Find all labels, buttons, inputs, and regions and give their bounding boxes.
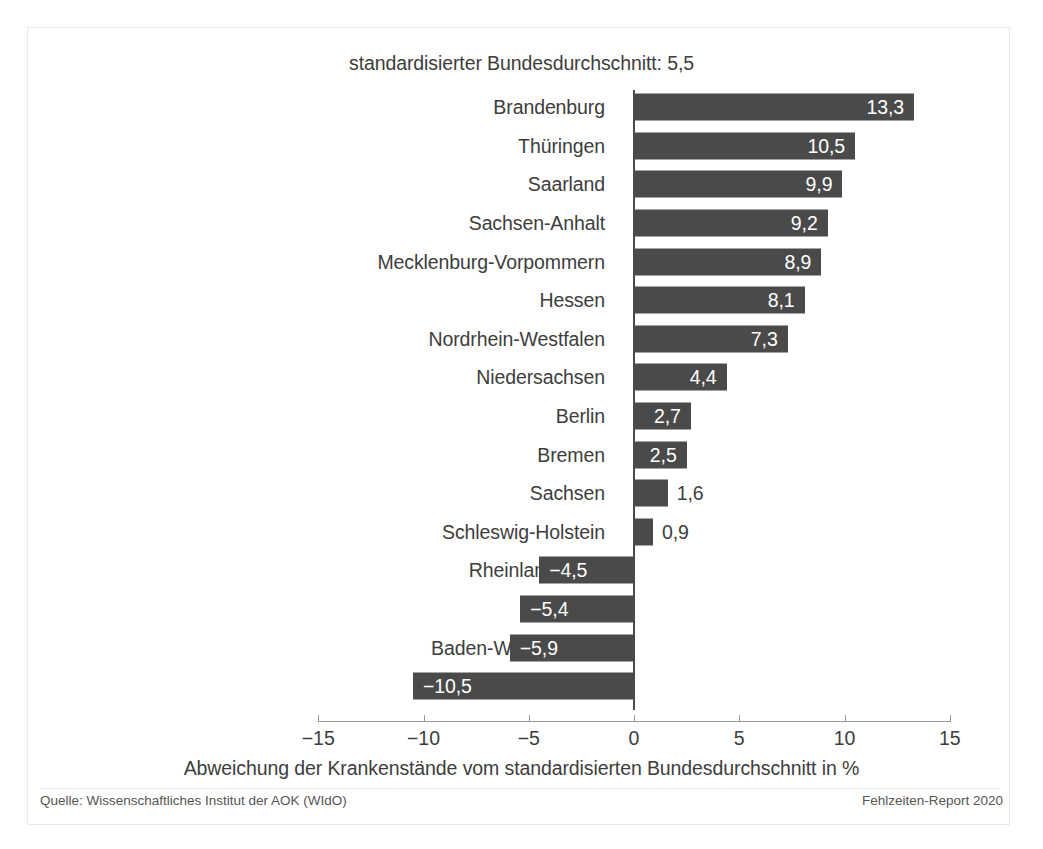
zero-axis-line xyxy=(633,90,635,710)
x-axis-tick xyxy=(529,715,530,722)
bar-value-label: 2,5 xyxy=(650,443,677,466)
x-axis-tick xyxy=(950,715,951,722)
x-axis-tick-label: −5 xyxy=(489,727,569,750)
bar-row: Berlin2,7 xyxy=(0,397,1043,436)
bar-value-label: 9,2 xyxy=(791,212,818,235)
x-axis-title: Abweichung der Krankenstände vom standar… xyxy=(0,757,1043,780)
x-axis-tick-label: 15 xyxy=(910,727,990,750)
x-axis-tick xyxy=(739,715,740,722)
bar-value-label: 1,6 xyxy=(677,482,704,505)
bar-value-label: 8,9 xyxy=(785,250,812,273)
bar-row: Nordrhein-Westfalen7,3 xyxy=(0,320,1043,359)
bar-row: Mecklenburg-Vorpommern8,9 xyxy=(0,242,1043,281)
category-label: Mecklenburg-Vorpommern xyxy=(40,250,605,273)
footer-report: Fehlzeiten-Report 2020 xyxy=(862,793,1003,808)
footer-divider xyxy=(40,788,1000,789)
bar-value-label: −5,4 xyxy=(530,598,568,621)
x-axis-tick xyxy=(845,715,846,722)
category-label: Sachsen-Anhalt xyxy=(40,212,605,235)
bar-value-label: 9,9 xyxy=(806,173,833,196)
bar-value-label: −10,5 xyxy=(423,675,472,698)
x-axis-tick xyxy=(318,715,319,722)
bar-value-label: 7,3 xyxy=(751,327,778,350)
x-axis-tick-label: 5 xyxy=(699,727,779,750)
bar-row: Brandenburg13,3 xyxy=(0,88,1043,127)
bar xyxy=(634,480,668,507)
category-label: Rheinland-Pfalz xyxy=(40,559,605,582)
bar-row: Sachsen-Anhalt9,2 xyxy=(0,204,1043,243)
bar-value-label: 0,9 xyxy=(662,520,689,543)
x-axis-tick-label: −15 xyxy=(278,727,358,750)
category-label: Saarland xyxy=(40,173,605,196)
category-label: Hessen xyxy=(40,289,605,312)
category-label: Sachsen xyxy=(40,482,605,505)
bar-value-label: 4,4 xyxy=(690,366,717,389)
footer-source: Quelle: Wissenschaftliches Institut der … xyxy=(40,793,347,808)
bar-row: Niedersachsen4,4 xyxy=(0,358,1043,397)
x-axis-tick xyxy=(424,715,425,722)
bar-value-label: 13,3 xyxy=(866,96,904,119)
bar-row: Hessen8,1 xyxy=(0,281,1043,320)
bar-value-label: −5,9 xyxy=(520,636,558,659)
x-axis-tick xyxy=(634,715,635,722)
bar-row: Schleswig-Holstein0,9 xyxy=(0,513,1043,552)
bar-row: Bayern−10,5 xyxy=(0,667,1043,706)
category-label: Berlin xyxy=(40,405,605,428)
plot-area: Brandenburg13,3Thüringen10,5Saarland9,9S… xyxy=(0,88,1043,713)
bar-value-label: 2,7 xyxy=(654,405,681,428)
bar xyxy=(634,518,653,545)
bar-row: Rheinland-Pfalz−4,5 xyxy=(0,551,1043,590)
bar-row: Sachsen1,6 xyxy=(0,474,1043,513)
category-label: Bremen xyxy=(40,443,605,466)
x-axis-tick-label: −10 xyxy=(384,727,464,750)
category-label: Schleswig-Holstein xyxy=(40,520,605,543)
bar-row: Thüringen10,5 xyxy=(0,127,1043,166)
category-label: Thüringen xyxy=(40,134,605,157)
category-label: Niedersachsen xyxy=(40,366,605,389)
bar-row: Saarland9,9 xyxy=(0,165,1043,204)
bar-row: Hamburg−5,4 xyxy=(0,590,1043,629)
category-label: Brandenburg xyxy=(40,96,605,119)
bar-row: Baden-Württemberg−5,9 xyxy=(0,628,1043,667)
bar-row: Bremen2,5 xyxy=(0,435,1043,474)
chart-figure: standardisierter Bundesdurchschnitt: 5,5… xyxy=(0,0,1043,849)
bar-value-label: 10,5 xyxy=(807,134,845,157)
category-label: Nordrhein-Westfalen xyxy=(40,327,605,350)
bar-value-label: 8,1 xyxy=(768,289,795,312)
x-axis-tick-label: 0 xyxy=(594,727,674,750)
bar-value-label: −4,5 xyxy=(549,559,587,582)
x-axis-tick-label: 10 xyxy=(805,727,885,750)
chart-title: standardisierter Bundesdurchschnitt: 5,5 xyxy=(0,52,1043,75)
